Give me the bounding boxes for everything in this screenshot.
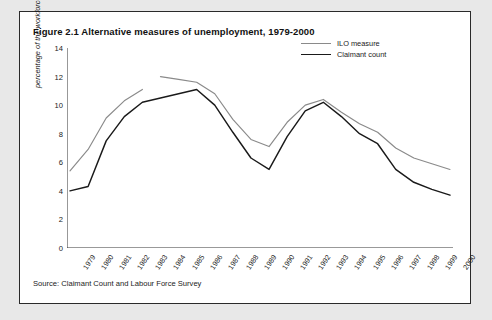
x-tick-label: 1993 (334, 253, 350, 271)
x-tick-label: 2000 (461, 253, 477, 271)
x-tick-label: 1979 (81, 253, 97, 271)
x-tick-label: 1981 (117, 253, 133, 271)
legend-label: Claimant count (337, 50, 386, 59)
source-note: Source: Claimant Count and Labour Force … (33, 279, 201, 288)
y-tick-label: 0 (59, 244, 63, 253)
x-tick-label: 1995 (371, 253, 387, 271)
x-tick-label: 1980 (99, 253, 115, 271)
y-tick-label: 4 (59, 186, 63, 195)
x-tick-label: 1988 (244, 253, 260, 271)
y-tick-label: 12 (55, 72, 63, 81)
x-tick-label: 1991 (298, 253, 314, 271)
x-tick-label: 1994 (352, 253, 368, 271)
x-tick-label: 1996 (389, 253, 405, 271)
y-axis-title: percentage of the workforce unemployed (33, 0, 42, 88)
y-tick-label: 8 (59, 129, 63, 138)
legend-item: Claimant count (301, 49, 386, 60)
legend-item: ILO measure (301, 38, 386, 49)
x-tick-label: 1984 (172, 253, 188, 271)
plot-area: percentage of the workforce unemployed 0… (67, 48, 453, 248)
legend-label: ILO measure (337, 39, 380, 48)
x-tick-label: 1986 (208, 253, 224, 271)
figure-frame: Figure 2.1 Alternative measures of unemp… (19, 11, 471, 304)
x-tick-label: 1992 (316, 253, 332, 271)
x-tick-label: 1997 (407, 253, 423, 271)
x-tick-label: 1987 (226, 253, 242, 271)
x-tick-label: 1982 (135, 253, 151, 271)
legend-line-icon (301, 54, 331, 55)
x-tick-label: 1990 (280, 253, 296, 271)
x-tick-label: 1989 (262, 253, 278, 271)
y-tick-label: 14 (55, 44, 63, 53)
legend-line-icon (301, 43, 331, 44)
figure-title: Figure 2.1 Alternative measures of unemp… (33, 26, 315, 37)
x-tick-label: 1999 (443, 253, 459, 271)
y-tick-label: 6 (59, 158, 63, 167)
x-tick-label: 1998 (425, 253, 441, 271)
chart-plot (67, 48, 453, 248)
x-tick-label: 1983 (153, 253, 169, 271)
y-tick-label: 2 (59, 215, 63, 224)
chart-legend: ILO measureClaimant count (301, 38, 386, 60)
y-tick-label: 10 (55, 101, 63, 110)
x-tick-label: 1985 (190, 253, 206, 271)
